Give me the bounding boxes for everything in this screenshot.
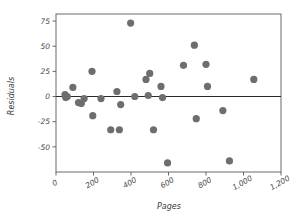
- scatter-point: [204, 83, 211, 90]
- scatter-point: [89, 112, 96, 119]
- y-tick-label: 25: [40, 67, 50, 76]
- y-tick-label: 75: [40, 17, 50, 26]
- scatter-point: [191, 42, 198, 49]
- scatter-point: [157, 83, 164, 90]
- y-tick-label: 0: [45, 92, 50, 101]
- scatter-point: [131, 93, 138, 100]
- scatter-point: [88, 68, 95, 75]
- scatter-point: [226, 157, 233, 164]
- plot-canvas: 7550250-25-50 02004006008001,0001,200 Pa…: [0, 0, 302, 216]
- y-tick-label: -50: [38, 143, 50, 152]
- scatter-point: [81, 95, 88, 102]
- scatter-point: [250, 76, 257, 83]
- scatter-point: [193, 115, 200, 122]
- scatter-point: [97, 95, 104, 102]
- scatter-point: [69, 84, 76, 91]
- scatter-point: [202, 61, 209, 68]
- scatter-point: [180, 62, 187, 69]
- scatter-point: [142, 76, 149, 83]
- y-tick-label: 50: [40, 42, 50, 51]
- scatter-point: [145, 92, 152, 99]
- x-axis-title: Pages: [157, 202, 181, 211]
- residual-scatter-figure: 7550250-25-50 02004006008001,0001,200 Pa…: [0, 0, 302, 216]
- scatter-point: [113, 88, 120, 95]
- scatter-point: [150, 126, 157, 133]
- scatter-point: [64, 93, 71, 100]
- scatter-point: [117, 101, 124, 108]
- scatter-point: [159, 94, 166, 101]
- y-axis-title: Residuals: [7, 77, 16, 115]
- figure-background: [0, 0, 302, 216]
- scatter-point: [127, 19, 134, 26]
- scatter-point: [107, 126, 114, 133]
- scatter-point: [146, 70, 153, 77]
- y-tick-label: -25: [38, 117, 50, 126]
- scatter-point: [219, 107, 226, 114]
- scatter-point: [164, 159, 171, 166]
- scatter-point: [116, 126, 123, 133]
